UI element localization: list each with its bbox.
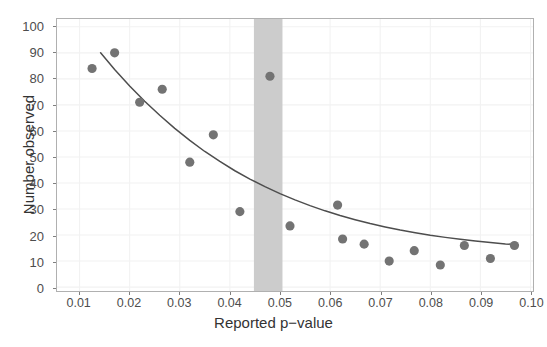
x-tick-label: 0.08 — [419, 296, 443, 310]
x-tick-mark — [230, 292, 231, 295]
y-axis-label: Number observed — [20, 15, 37, 295]
x-tick-mark — [481, 292, 482, 295]
x-tick-label: 0.02 — [117, 296, 141, 310]
x-tick-mark — [531, 292, 532, 295]
grid-lines — [57, 19, 533, 291]
data-points — [87, 48, 519, 269]
x-tick-label: 0.06 — [318, 296, 342, 310]
shaded-band — [254, 19, 283, 291]
x-tick-label: 0.07 — [368, 296, 392, 310]
chart-figure: 0102030405060708090100 0.010.020.030.040… — [0, 0, 547, 347]
plot-canvas — [57, 19, 533, 291]
x-tick-mark — [431, 292, 432, 295]
plot-panel — [56, 18, 534, 292]
x-tick-mark — [280, 292, 281, 295]
x-tick-label: 0.10 — [519, 296, 543, 310]
fit-curve — [101, 53, 518, 245]
x-tick-label: 0.05 — [268, 296, 292, 310]
x-tick-label: 0.04 — [217, 296, 241, 310]
x-tick-mark — [129, 292, 130, 295]
x-axis-label: Reported p−value — [0, 314, 547, 331]
x-tick-label: 0.09 — [469, 296, 493, 310]
x-tick-mark — [381, 292, 382, 295]
x-tick-mark — [79, 292, 80, 295]
x-tick-mark — [179, 292, 180, 295]
x-tick-label: 0.03 — [167, 296, 191, 310]
x-tick-mark — [330, 292, 331, 295]
x-tick-label: 0.01 — [66, 296, 90, 310]
